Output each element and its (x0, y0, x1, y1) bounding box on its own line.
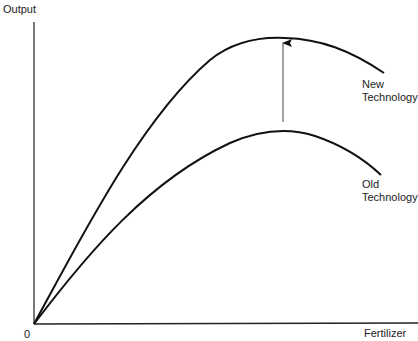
new-technology-label: New Technology (362, 78, 418, 104)
old-technology-label: Old Technology (362, 178, 418, 204)
new-technology-label-line1: New (362, 78, 418, 91)
y-axis-label: Output (3, 3, 36, 16)
old-technology-label-line1: Old (362, 178, 418, 191)
origin-label: 0 (24, 328, 30, 341)
new-technology-curve (34, 38, 384, 324)
new-technology-label-line2: Technology (362, 91, 418, 104)
x-axis-label: Fertilizer (364, 327, 406, 340)
old-technology-label-line2: Technology (362, 191, 418, 204)
x-axis (34, 323, 418, 324)
